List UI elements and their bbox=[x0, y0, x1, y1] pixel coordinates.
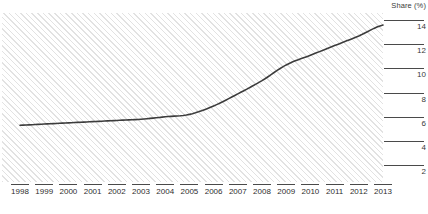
x-axis-tick bbox=[350, 184, 368, 185]
y-axis: Share (%) 1412108642 bbox=[384, 0, 428, 186]
x-axis-label: 2001 bbox=[80, 187, 106, 196]
x-axis-tick bbox=[326, 184, 344, 185]
x-axis-tick bbox=[132, 184, 150, 185]
x-axis-label: 1999 bbox=[31, 187, 57, 196]
y-axis-tick bbox=[384, 165, 424, 166]
x-axis-label: 2005 bbox=[176, 187, 202, 196]
x-axis-label: 2011 bbox=[322, 187, 348, 196]
y-axis-tick bbox=[384, 117, 424, 118]
y-axis-label: 10 bbox=[417, 70, 426, 79]
x-axis-label: 2010 bbox=[297, 187, 323, 196]
x-axis-label: 2013 bbox=[370, 187, 396, 196]
y-axis-label: 6 bbox=[422, 119, 426, 128]
x-axis-label: 2000 bbox=[55, 187, 81, 196]
x-axis-tick bbox=[205, 184, 223, 185]
x-axis-tick bbox=[156, 184, 174, 185]
x-axis-label: 2007 bbox=[225, 187, 251, 196]
y-axis-tick bbox=[384, 44, 424, 45]
line-chart: Share (%) 1412108642 1998199920002001200… bbox=[0, 0, 428, 214]
x-axis-tick bbox=[253, 184, 271, 185]
x-axis-label: 2012 bbox=[346, 187, 372, 196]
x-axis-tick bbox=[35, 184, 53, 185]
data-line-share bbox=[20, 25, 383, 125]
y-axis-tick bbox=[384, 68, 424, 69]
x-axis-label: 2009 bbox=[273, 187, 299, 196]
x-axis-tick bbox=[59, 184, 77, 185]
x-axis-label: 2002 bbox=[104, 187, 130, 196]
x-axis-tick bbox=[84, 184, 102, 185]
x-axis-tick bbox=[277, 184, 295, 185]
x-axis-label: 2006 bbox=[201, 187, 227, 196]
x-axis-tick bbox=[108, 184, 126, 185]
y-axis-label: 2 bbox=[422, 167, 426, 176]
y-axis-tick bbox=[384, 141, 424, 142]
x-axis-tick bbox=[229, 184, 247, 185]
y-axis-tick bbox=[384, 93, 424, 94]
x-axis-label: 2004 bbox=[152, 187, 178, 196]
y-axis-label: 12 bbox=[417, 46, 426, 55]
x-axis-tick bbox=[11, 184, 29, 185]
x-axis-label: 1998 bbox=[7, 187, 33, 196]
y-axis-title: Share (%) bbox=[391, 1, 426, 10]
x-axis-tick bbox=[374, 184, 392, 185]
x-axis-tick bbox=[301, 184, 319, 185]
chart-caption bbox=[0, 205, 428, 214]
x-axis-tick bbox=[180, 184, 198, 185]
y-axis-label: 8 bbox=[422, 95, 426, 104]
x-axis-label: 2003 bbox=[128, 187, 154, 196]
y-axis-tick bbox=[384, 20, 424, 21]
y-axis-label: 4 bbox=[422, 143, 426, 152]
x-axis-label: 2008 bbox=[249, 187, 275, 196]
y-axis-label: 14 bbox=[417, 22, 426, 31]
x-axis: 1998199920002001200220032004200520062007… bbox=[0, 182, 428, 204]
